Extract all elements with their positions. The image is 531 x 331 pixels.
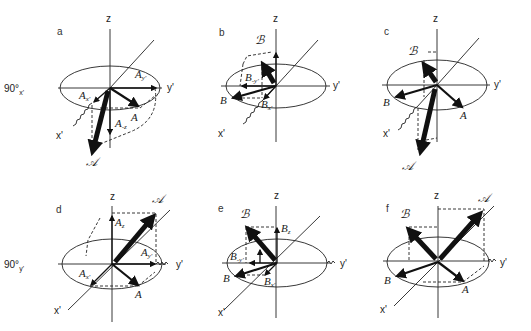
panel-c: c z y' x' ℬ B A 𝒜 — [382, 13, 501, 173]
dashed-rotation-path — [243, 52, 272, 64]
y-axis-label: y' — [333, 80, 340, 91]
label-script-B: ℬ — [255, 33, 266, 47]
wave-icon — [398, 107, 417, 130]
vector-A — [110, 88, 138, 106]
label-A-minus-z: A-z — [114, 117, 127, 131]
vector-A — [437, 85, 462, 107]
x-axis-back — [437, 38, 479, 85]
label-script-B: ℬ — [400, 207, 411, 221]
y-axis-label: y' — [500, 257, 507, 268]
panel-letter: d — [56, 204, 62, 215]
panel-f: f z y' x' ℬ 𝒜 B A — [380, 190, 507, 318]
x-axis-label: x' — [54, 305, 61, 316]
panel-letter: b — [219, 27, 225, 38]
x-axis-back — [276, 40, 318, 86]
y-axis-label: y' — [167, 82, 174, 93]
dashed-rotation-path — [86, 218, 100, 256]
z-axis-label: z — [434, 190, 439, 201]
vector-A — [438, 262, 463, 281]
label-B: B — [383, 96, 390, 108]
label-B-minus-y: B-y' — [230, 250, 244, 264]
panel-e: e z y' x' ℬ Bz B-y' B Bx' — [218, 190, 347, 318]
x-axis-label: x' — [56, 130, 63, 141]
z-axis-label: z — [433, 13, 438, 24]
label-B-x: Bx' — [261, 98, 273, 112]
y-axis-label: y' — [340, 258, 347, 269]
label-B: B — [220, 94, 227, 106]
vector-B — [397, 262, 438, 276]
label-B: B — [223, 272, 230, 284]
label-B-x: Bx' — [264, 275, 276, 289]
vector-diagram-figure: a z 90°x' y' x' Ay' Ax' A A-z 𝒜 b z — [0, 0, 531, 331]
vector-B — [233, 86, 276, 98]
wave-icon — [243, 101, 262, 124]
label-B: B — [384, 274, 391, 286]
label-B-z: Bz — [281, 222, 291, 236]
x-axis-label: x' — [380, 304, 387, 315]
vector-script-A — [93, 91, 108, 150]
label-script-B: ℬ — [240, 207, 251, 221]
pulse-label: 90°y' — [4, 259, 24, 273]
label-script-B: ℬ — [408, 44, 419, 58]
label-B-minus-y: B-y' — [245, 71, 259, 85]
x-axis-label: x' — [218, 307, 225, 318]
wave-icon — [327, 261, 335, 264]
z-axis-label: z — [274, 190, 279, 201]
panel-letter: c — [384, 26, 389, 37]
label-script-A: 𝒜 — [478, 191, 493, 205]
label-A: A — [459, 109, 467, 121]
z-axis-label: z — [106, 13, 111, 24]
x-axis-label: x' — [383, 128, 390, 139]
label-A-y: Ay' — [134, 68, 147, 82]
dashed-guide — [426, 138, 437, 140]
label-script-A: 𝒜 — [402, 159, 417, 173]
label-A: A — [130, 111, 138, 123]
y-axis-label: y' — [176, 259, 183, 270]
label-A: A — [461, 283, 469, 295]
x-axis-back — [110, 40, 154, 88]
pulse-label: 90°x' — [4, 83, 24, 96]
vector-B — [396, 85, 437, 97]
vector-script-B — [249, 230, 275, 260]
panel-d: d z 90°y' y' x' 𝒜 Az Ay' Ax' A — [4, 191, 183, 322]
x-axis-label: x' — [218, 128, 225, 139]
vector-script-B — [425, 66, 436, 82]
vector-script-B — [410, 231, 436, 259]
label-A-z: Az — [114, 216, 125, 230]
label-script-A: 𝒜 — [86, 155, 101, 169]
dashed-guide — [240, 64, 243, 86]
label-A-x: Ax' — [78, 267, 91, 281]
panel-letter: a — [57, 26, 63, 37]
vector-script-A — [421, 89, 435, 150]
z-axis-label: z — [110, 191, 115, 202]
panel-letter: e — [218, 203, 224, 214]
panel-letter: f — [386, 203, 389, 214]
label-A-x: Ax' — [78, 89, 91, 103]
label-script-A: 𝒜 — [152, 192, 167, 206]
y-axis-label: y' — [494, 79, 501, 90]
z-axis-label: z — [273, 13, 278, 24]
vector-A-x — [91, 264, 112, 285]
vector-A — [112, 264, 138, 285]
panel-b: b z y' x' ℬ B-y' B Bx' — [218, 13, 340, 142]
dashed-guide — [140, 95, 156, 108]
panel-a: a z 90°x' y' x' Ay' Ax' A A-z 𝒜 — [4, 13, 174, 169]
label-A: A — [134, 288, 142, 300]
vector-script-B — [264, 66, 274, 83]
